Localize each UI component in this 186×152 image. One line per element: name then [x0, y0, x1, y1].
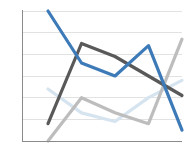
chart-canvas: [0, 0, 186, 152]
series-group: [48, 11, 182, 141]
line-chart-figure: [0, 0, 186, 152]
